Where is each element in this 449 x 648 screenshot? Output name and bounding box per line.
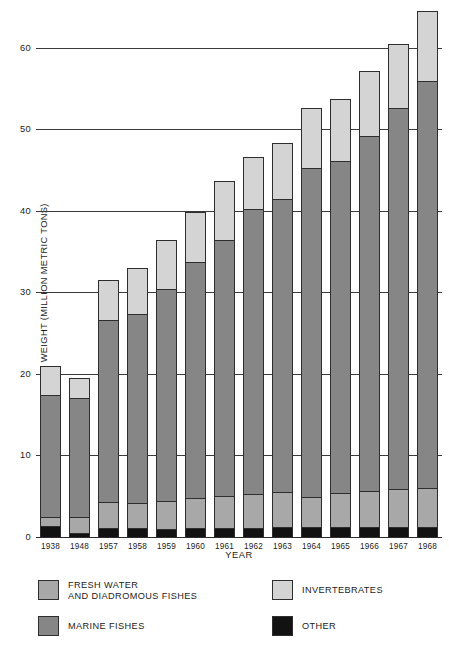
legend-item-other: OTHER (272, 616, 336, 636)
bar-1967 (388, 44, 410, 538)
y-tick-label-0: 0 (26, 532, 31, 542)
bar-segment-1968-marine-fishes (417, 81, 439, 488)
bar-1959 (156, 240, 178, 538)
bar-segment-1962-other (243, 528, 265, 538)
bar-segment-1958-other (127, 528, 149, 538)
bar-segment-1938-marine-fishes (40, 395, 62, 516)
bar-segment-1964-other (301, 527, 323, 538)
plot-area: 1020304050600 19381948195719581959196019… (36, 8, 442, 538)
bar-1962 (243, 157, 265, 538)
legend-item-invertebrates: INVERTEBRATES (272, 580, 383, 600)
bar-segment-1960-other (185, 528, 207, 538)
bar-segment-1965-fresh-water-and-diadromous-fishes (330, 493, 352, 527)
y-tick-label-50: 50 (20, 124, 31, 134)
bar-segment-1959-fresh-water-and-diadromous-fishes (156, 501, 178, 530)
legend-swatch-invertebrates (272, 580, 293, 600)
bar-segment-1961-fresh-water-and-diadromous-fishes (214, 496, 236, 528)
bar-segment-1968-invertebrates (417, 11, 439, 81)
bar-segment-1962-marine-fishes (243, 209, 265, 494)
bar-segment-1967-fresh-water-and-diadromous-fishes (388, 489, 410, 527)
bar-1957 (98, 280, 120, 538)
stacked-bar-chart: LIVE WEIGHT (MILLION METRIC TONS) 102030… (0, 0, 449, 648)
bar-1961 (214, 181, 236, 538)
bar-1966 (359, 71, 381, 538)
bar-segment-1966-fresh-water-and-diadromous-fishes (359, 491, 381, 527)
bar-segment-1960-invertebrates (185, 212, 207, 263)
bar-1960 (185, 212, 207, 538)
bar-segment-1959-other (156, 529, 178, 538)
bar-segment-1962-fresh-water-and-diadromous-fishes (243, 494, 265, 528)
bar-segment-1963-invertebrates (272, 143, 294, 199)
bar-segment-1968-other (417, 527, 439, 538)
bar-1968 (417, 11, 439, 538)
y-tick-label-20: 20 (20, 369, 31, 379)
bar-segment-1963-marine-fishes (272, 199, 294, 493)
bar-segment-1967-other (388, 527, 410, 538)
bar-segment-1938-other (40, 526, 62, 538)
bar-segment-1965-other (330, 527, 352, 538)
bar-segment-1948-invertebrates (69, 378, 91, 398)
bar-segment-1948-marine-fishes (69, 398, 91, 517)
legend-swatch-marine (38, 616, 59, 636)
bar-segment-1964-invertebrates (301, 108, 323, 168)
bar-segment-1966-other (359, 527, 381, 538)
bar-segment-1963-other (272, 527, 294, 538)
bar-segment-1961-other (214, 528, 236, 538)
bar-segment-1963-fresh-water-and-diadromous-fishes (272, 492, 294, 527)
bar-1965 (330, 99, 352, 538)
bar-segment-1938-invertebrates (40, 366, 62, 395)
legend-label-marine: MARINE FISHES (68, 616, 145, 632)
bar-segment-1966-marine-fishes (359, 136, 381, 491)
bars-layer (36, 8, 442, 538)
bar-segment-1960-marine-fishes (185, 262, 207, 498)
bar-segment-1968-fresh-water-and-diadromous-fishes (417, 488, 439, 526)
y-tick-label-40: 40 (20, 206, 31, 216)
caption-strip (0, 636, 449, 648)
bar-1964 (301, 107, 323, 538)
bar-segment-1958-marine-fishes (127, 314, 149, 503)
bar-segment-1957-other (98, 528, 120, 538)
bar-segment-1964-marine-fishes (301, 168, 323, 497)
bar-segment-1948-other (69, 533, 91, 538)
y-tick-label-10: 10 (20, 450, 31, 460)
bar-segment-1967-invertebrates (388, 44, 410, 108)
legend-item-freshwater: FRESH WATER AND DIADROMOUS FISHES (38, 580, 197, 601)
chart-legend: FRESH WATER AND DIADROMOUS FISHES INVERT… (38, 580, 438, 640)
bar-segment-1958-invertebrates (127, 268, 149, 314)
legend-label-freshwater: FRESH WATER AND DIADROMOUS FISHES (68, 580, 197, 601)
bar-segment-1957-fresh-water-and-diadromous-fishes (98, 502, 120, 528)
legend-item-marine: MARINE FISHES (38, 616, 145, 636)
bar-segment-1965-marine-fishes (330, 161, 352, 493)
bar-segment-1958-fresh-water-and-diadromous-fishes (127, 503, 149, 528)
bar-1948 (69, 378, 91, 538)
bar-segment-1964-fresh-water-and-diadromous-fishes (301, 497, 323, 527)
bar-segment-1961-marine-fishes (214, 240, 236, 496)
legend-swatch-freshwater (38, 580, 59, 600)
bar-segment-1965-invertebrates (330, 99, 352, 162)
y-tick-label-30: 30 (20, 287, 31, 297)
legend-label-other: OTHER (302, 616, 336, 632)
legend-swatch-other (272, 616, 293, 636)
bar-segment-1959-invertebrates (156, 240, 178, 290)
bar-segment-1961-invertebrates (214, 181, 236, 241)
bar-1963 (272, 143, 294, 538)
bar-segment-1967-marine-fishes (388, 108, 410, 489)
bar-segment-1962-invertebrates (243, 157, 265, 209)
bar-segment-1938-fresh-water-and-diadromous-fishes (40, 517, 62, 526)
bar-segment-1960-fresh-water-and-diadromous-fishes (185, 498, 207, 528)
bar-segment-1957-invertebrates (98, 280, 120, 320)
bar-segment-1957-marine-fishes (98, 320, 120, 502)
bar-segment-1966-invertebrates (359, 71, 381, 136)
x-axis-title: YEAR (36, 550, 442, 560)
bar-segment-1948-fresh-water-and-diadromous-fishes (69, 517, 91, 533)
legend-label-invertebrates: INVERTEBRATES (302, 580, 383, 596)
bar-segment-1959-marine-fishes (156, 289, 178, 500)
y-tick-label-60: 60 (20, 43, 31, 53)
bar-1958 (127, 268, 149, 538)
bar-1938 (40, 366, 62, 538)
